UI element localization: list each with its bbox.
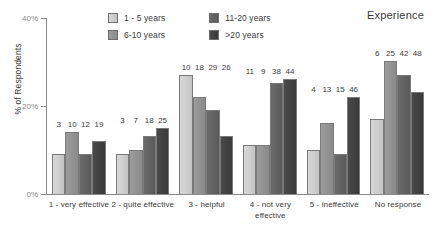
bar xyxy=(347,97,360,194)
plot-area: 0% 20% 40% 31012193718251018292611938444… xyxy=(46,18,429,195)
bar xyxy=(384,61,397,194)
x-axis-category-label: 1 - very effective xyxy=(47,199,111,221)
x-axis-category-label: 3 - helpful xyxy=(175,199,239,221)
y-tick-0: 0% xyxy=(41,194,46,195)
bar xyxy=(283,79,296,194)
bar xyxy=(65,132,78,194)
bar xyxy=(92,141,105,194)
bar xyxy=(220,136,233,194)
bars xyxy=(370,18,423,194)
y-tick-label-40: 40% xyxy=(22,14,38,23)
x-axis-category-labels: 1 - very effective2 - quite effective3 -… xyxy=(47,199,430,221)
bar-group: 6254248 xyxy=(365,18,429,194)
bar xyxy=(307,150,320,194)
y-tick-40: 40% xyxy=(41,18,46,19)
bars xyxy=(243,18,296,194)
bar xyxy=(411,92,424,194)
bar xyxy=(334,154,347,194)
x-axis-category-label: No response xyxy=(366,199,430,221)
bar xyxy=(193,97,206,194)
bar xyxy=(370,119,383,194)
bar-group: 371825 xyxy=(111,18,175,194)
bars xyxy=(52,18,105,194)
bar xyxy=(129,150,142,194)
bars xyxy=(179,18,232,194)
bar xyxy=(397,75,410,194)
bar xyxy=(179,75,192,194)
bars xyxy=(307,18,360,194)
bar xyxy=(206,110,219,194)
x-axis-line xyxy=(46,194,429,195)
y-tick-label-0: 0% xyxy=(26,190,38,199)
bar xyxy=(320,123,333,194)
bar-group: 10182926 xyxy=(174,18,238,194)
y-axis-label: % of Respondents xyxy=(13,19,23,139)
x-axis-category-label: 2 - quite effective xyxy=(111,199,175,221)
x-axis-category-label: 5 - ineffective xyxy=(302,199,366,221)
bar-group: 4131546 xyxy=(302,18,366,194)
bars xyxy=(116,18,169,194)
bar xyxy=(256,145,269,194)
y-tick-20: 20% xyxy=(41,106,46,107)
x-axis-category-label: 4 - not very effective xyxy=(238,199,302,221)
bar-group: 1193844 xyxy=(238,18,302,194)
bar xyxy=(116,154,129,194)
bar xyxy=(156,128,169,194)
bar xyxy=(270,83,283,194)
bar xyxy=(143,136,156,194)
bar xyxy=(79,154,92,194)
bar xyxy=(243,145,256,194)
y-tick-label-20: 20% xyxy=(22,102,38,111)
bar-chart: 1 - 5 years 11-20 years 6-10 years >20 y… xyxy=(0,0,437,240)
bar-group: 3101219 xyxy=(47,18,111,194)
bar-groups: 3101219371825101829261193844413154662542… xyxy=(47,18,429,194)
bar xyxy=(52,154,65,194)
